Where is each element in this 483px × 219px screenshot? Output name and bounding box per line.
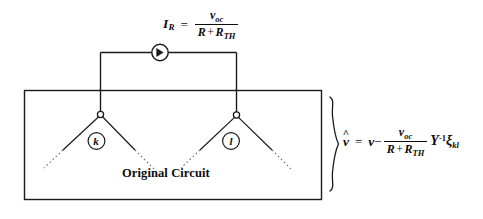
node-terminal-k	[97, 111, 103, 117]
node-terminal-l	[233, 112, 239, 118]
equation-right-vector: ξkl	[446, 134, 459, 149]
equation-current-top: IR = voc R+RTH	[163, 9, 239, 40]
node-label-l: l	[224, 136, 238, 147]
equation-right-minus: −	[374, 135, 381, 148]
equation-voltage-right: ^ v = v − voc R+RTH Y-1 ξkl	[343, 126, 459, 157]
equation-top-equals: =	[180, 18, 187, 31]
equation-right-equals: =	[355, 135, 362, 148]
hat-accent: ^	[343, 128, 349, 139]
equation-top-denominator: R+RTH	[195, 25, 239, 40]
equation-top-fraction: voc R+RTH	[195, 9, 239, 40]
equation-right-fraction: voc R+RTH	[384, 126, 428, 157]
node-label-k: k	[89, 136, 103, 147]
equation-right-lhs: ^ v	[343, 135, 349, 149]
equation-top-numerator: voc	[207, 9, 226, 24]
right-curly-brace	[330, 97, 339, 191]
equation-right-numerator: voc	[396, 126, 415, 141]
equation-top-lhs: IR	[163, 17, 174, 33]
equation-right-denominator: R+RTH	[384, 142, 428, 157]
original-circuit-label: Original Circuit	[122, 166, 210, 181]
equation-right-matrix: Y-1	[430, 134, 446, 148]
circuit-diagram-svg	[0, 0, 483, 219]
figure-canvas: IR = voc R+RTH ^ v = v − voc R+RTH Y-1 ξ…	[0, 0, 483, 219]
